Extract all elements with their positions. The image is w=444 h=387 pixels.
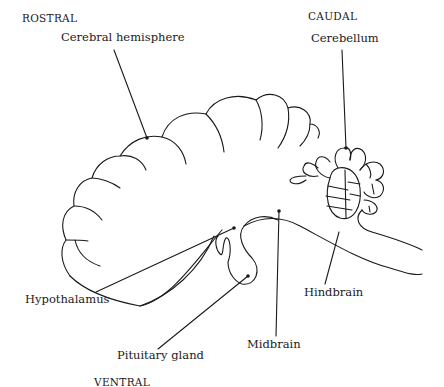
cerebellum-outline — [290, 148, 383, 219]
label-cerebellum: Cerebellum — [311, 33, 379, 45]
leader-pituitary — [158, 276, 248, 349]
label-midbrain: Midbrain — [247, 339, 301, 351]
label-cerebral-hemisphere: Cerebral hemisphere — [61, 32, 185, 44]
diencephalon-outline — [216, 217, 278, 285]
label-pituitary-gland: Pituitary gland — [117, 350, 204, 362]
leader-hindbrain — [325, 232, 339, 284]
label-hindbrain: Hindbrain — [304, 287, 363, 299]
brain-drawing — [0, 0, 444, 387]
direction-rostral: ROSTRAL — [22, 13, 77, 24]
leader-midbrain — [276, 211, 279, 336]
brainstem-outline — [244, 210, 422, 275]
label-hypothalamus: Hypothalamus — [25, 294, 109, 306]
direction-ventral: VENTRAL — [94, 377, 150, 387]
leader-lines — [96, 50, 348, 349]
cerebral-hemisphere-outline — [62, 94, 319, 306]
direction-caudal: CAUDAL — [308, 11, 357, 22]
leader-cerebral-hemisphere — [114, 50, 147, 138]
leader-hypothalamus — [96, 228, 234, 292]
leader-cerebellum — [342, 50, 346, 148]
